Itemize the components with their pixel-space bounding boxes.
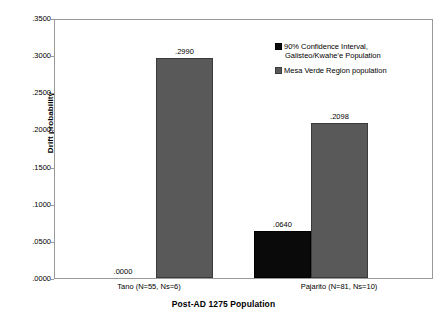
y-tick-label: .2500 [18, 89, 51, 97]
x-axis-category-labels: Tano (N=55, Ns=6) Pajarito (N=81, Ns=10) [54, 282, 433, 296]
bar-chart: Drift probability .3500 .3000 .2500 .200… [0, 0, 447, 323]
bar-value-label-tano-mesa-verde: .2990 [156, 47, 213, 56]
bar-value-label-tano-ci: .0000 [93, 267, 153, 276]
y-tick-label: .3500 [18, 15, 51, 23]
y-axis-tick-labels: .3500 .3000 .2500 .2000 .1500 .1000 .050… [18, 19, 51, 279]
legend-swatch-icon [275, 43, 282, 50]
legend-label-line2: Galisteo/Kwahe'e Population [284, 51, 381, 60]
legend-item-label: Mesa Verde Region population [284, 66, 387, 75]
x-category-label-pajarito: Pajarito (N=81, Ns=10) [244, 282, 434, 291]
bar-tano-mesa-verde [156, 58, 213, 278]
legend: 90% Confidence Interval, Galisteo/Kwahe'… [275, 42, 420, 81]
y-tick-mark [51, 279, 54, 280]
x-axis-title: Post-AD 1275 Population [0, 299, 447, 309]
y-tick-label: .2000 [18, 126, 51, 134]
y-tick-label: .0000 [18, 275, 51, 283]
bar-value-label-pajarito-ci: .0640 [254, 220, 311, 229]
bar-pajarito-ci [254, 231, 311, 278]
legend-label-line1: Mesa Verde Region population [284, 66, 387, 75]
legend-label-line1: 90% Confidence Interval, [284, 42, 368, 51]
bar-pajarito-mesa-verde [311, 123, 368, 278]
legend-swatch-icon [275, 67, 282, 74]
legend-item-mesa-verde[interactable]: Mesa Verde Region population [275, 66, 420, 75]
y-tick-label: .0500 [18, 238, 51, 246]
bar-value-label-pajarito-mesa-verde: .2098 [311, 112, 368, 121]
x-category-label-tano: Tano (N=55, Ns=6) [54, 282, 244, 291]
legend-item-label: 90% Confidence Interval, Galisteo/Kwahe'… [284, 42, 381, 60]
y-tick-label: .1500 [18, 164, 51, 172]
y-tick-label: .1000 [18, 201, 51, 209]
plot-area: .0000 .2990 .0640 .2098 90% Confidence I… [54, 19, 433, 279]
legend-item-confidence-interval[interactable]: 90% Confidence Interval, Galisteo/Kwahe'… [275, 42, 420, 60]
y-tick-label: .3000 [18, 52, 51, 60]
